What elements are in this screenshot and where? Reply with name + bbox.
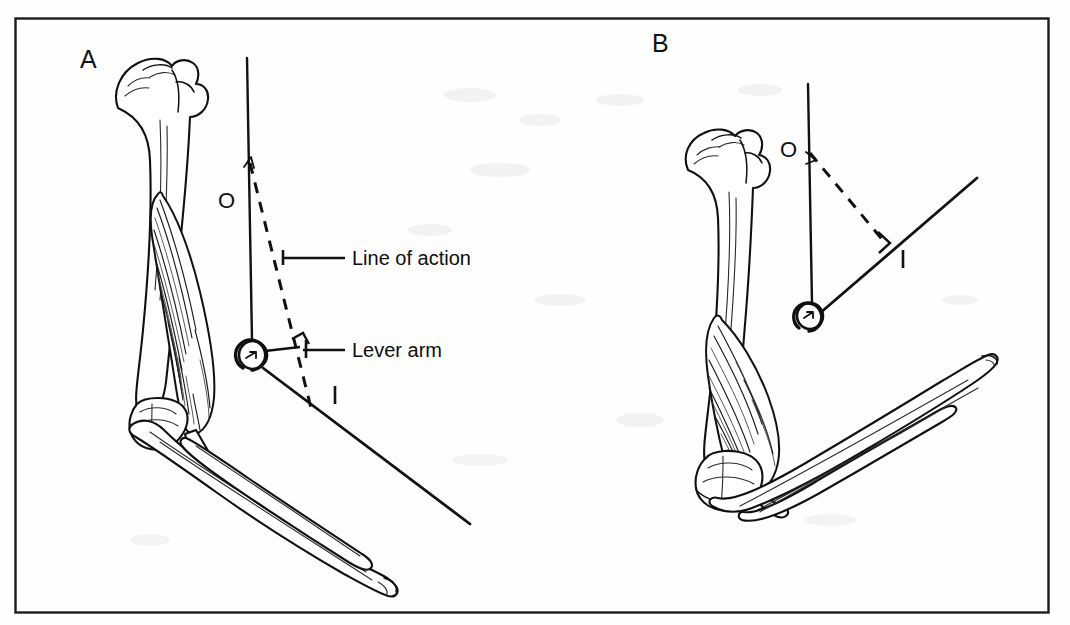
panel-a-letter: A — [80, 45, 97, 73]
origin-label-a: O — [218, 188, 235, 213]
origin-label-b: O — [780, 137, 797, 162]
figure-container: A — [0, 0, 1070, 625]
panel-b-letter: B — [652, 29, 669, 57]
joint-axis-marker-b — [794, 303, 823, 331]
lever-arm-label: Lever arm — [352, 339, 442, 361]
joint-axis-marker-a — [236, 340, 267, 370]
anatomy-figure: A — [0, 0, 1070, 625]
line-of-action-label: Line of action — [352, 247, 471, 269]
